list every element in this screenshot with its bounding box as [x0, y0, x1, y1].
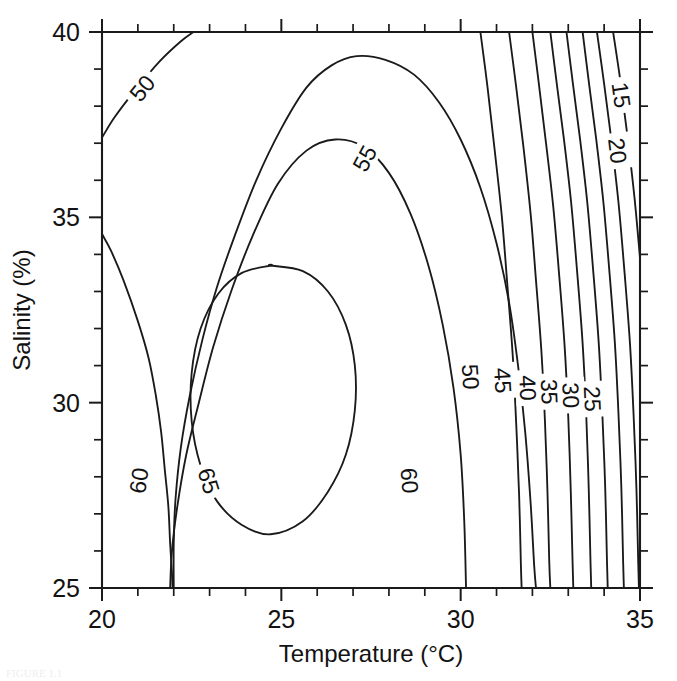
- contour-label-text: 60: [124, 466, 153, 495]
- contour-label: 25: [579, 380, 608, 417]
- contour-label: 20: [602, 131, 633, 170]
- contour-label: 60: [395, 462, 425, 500]
- x-tick-label-35: 35: [626, 605, 654, 633]
- y-tick-label-40: 40: [52, 18, 80, 46]
- x-tick-label-30: 30: [447, 605, 475, 633]
- contour-label: 50: [456, 358, 485, 396]
- y-axis-title: Salinity (%): [8, 249, 35, 370]
- x-axis-title: Temperature (°C): [279, 640, 463, 667]
- contour-label-text: 25: [579, 386, 606, 413]
- y-tick-label-30: 30: [52, 389, 80, 417]
- y-tick-label-35: 35: [52, 203, 80, 231]
- contour-plot-figure: 50551520504540353025606560 2025303525303…: [0, 0, 677, 681]
- contour-label: 15: [606, 75, 638, 114]
- x-tick-label-20: 20: [88, 605, 116, 633]
- y-tick-label-25: 25: [52, 574, 80, 602]
- contour-label: 60: [122, 461, 154, 501]
- contour-label-text: 20: [603, 136, 632, 165]
- contour-label-text: 60: [395, 467, 423, 495]
- figure-caption-partial: FIGURE 1.1: [6, 667, 246, 681]
- contour-label: 45: [489, 362, 518, 400]
- contour-label-text: 45: [489, 367, 517, 394]
- x-tick-label-25: 25: [267, 605, 295, 633]
- contour-label-text: 15: [606, 81, 635, 110]
- contour-label-text: 50: [457, 363, 485, 390]
